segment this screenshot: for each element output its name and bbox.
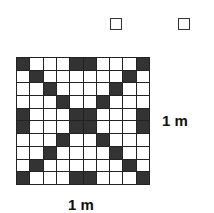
- grid-cell-light: [17, 71, 29, 83]
- grid-cell-light: [123, 109, 135, 121]
- grid-cell-light: [123, 96, 135, 108]
- grid-cell-dark: [30, 160, 42, 172]
- grid-cell-dark: [17, 109, 29, 121]
- grid-cell-light: [30, 134, 42, 146]
- grid-cell-dark: [70, 109, 82, 121]
- grid-cell-light: [97, 58, 109, 70]
- grid-cell-light: [84, 96, 96, 108]
- grid-cell-light: [57, 172, 69, 184]
- grid-cell-light: [70, 96, 82, 108]
- grid-cell-light: [30, 109, 42, 121]
- grid-cell-dark: [17, 121, 29, 133]
- grid-cell-dark: [44, 147, 56, 159]
- grid-cell-dark: [84, 121, 96, 133]
- grid-cell-light: [84, 160, 96, 172]
- grid-cell-light: [97, 71, 109, 83]
- grid-cell-light: [30, 147, 42, 159]
- grid-cell-light: [57, 121, 69, 133]
- grid-cell-dark: [70, 58, 82, 70]
- grid-cell-light: [44, 58, 56, 70]
- grid-cell-light: [44, 172, 56, 184]
- grid-cell-light: [17, 134, 29, 146]
- checkbox-1[interactable]: [110, 18, 122, 30]
- grid-cell-light: [44, 160, 56, 172]
- grid-cell-light: [30, 121, 42, 133]
- grid-cell-dark: [44, 83, 56, 95]
- grid-cell-light: [57, 71, 69, 83]
- grid-cell-light: [110, 172, 122, 184]
- grid-cell-dark: [123, 71, 135, 83]
- grid-cell-light: [110, 121, 122, 133]
- grid-cell-light: [70, 134, 82, 146]
- grid-cell-dark: [123, 160, 135, 172]
- grid-cell-light: [137, 134, 149, 146]
- height-label: 1 m: [162, 112, 188, 129]
- grid-cell-light: [44, 71, 56, 83]
- grid-cell-light: [44, 96, 56, 108]
- grid-cell-light: [57, 58, 69, 70]
- grid-cell-dark: [110, 147, 122, 159]
- grid-cell-light: [97, 83, 109, 95]
- grid-cell-light: [57, 160, 69, 172]
- grid-cell-light: [84, 147, 96, 159]
- grid-cell-light: [70, 160, 82, 172]
- grid-cell-dark: [137, 121, 149, 133]
- grid-cell-light: [110, 134, 122, 146]
- grid-cell-dark: [110, 83, 122, 95]
- grid-cell-light: [123, 147, 135, 159]
- grid-cell-light: [123, 121, 135, 133]
- tile-pattern-grid: [16, 57, 150, 185]
- grid-cell-dark: [17, 172, 29, 184]
- grid-cell-dark: [137, 109, 149, 121]
- grid-cell-light: [44, 134, 56, 146]
- grid-cell-light: [70, 83, 82, 95]
- grid-cell-dark: [57, 96, 69, 108]
- grid-cell-light: [70, 147, 82, 159]
- grid-cell-dark: [97, 96, 109, 108]
- grid-cell-light: [137, 147, 149, 159]
- grid-cell-light: [123, 172, 135, 184]
- grid-cell-light: [44, 121, 56, 133]
- grid-cell-dark: [137, 172, 149, 184]
- grid-cell-dark: [70, 172, 82, 184]
- grid-cell-dark: [84, 58, 96, 70]
- grid-cell-dark: [70, 121, 82, 133]
- grid-cell-light: [110, 71, 122, 83]
- grid-cell-light: [17, 160, 29, 172]
- grid-cell-light: [30, 172, 42, 184]
- grid-cell-light: [123, 134, 135, 146]
- grid-cell-dark: [30, 71, 42, 83]
- grid-cell-light: [97, 109, 109, 121]
- grid-cell-dark: [84, 109, 96, 121]
- width-label: 1 m: [68, 196, 94, 213]
- grid-cell-light: [123, 83, 135, 95]
- grid-cell-light: [137, 83, 149, 95]
- grid-cell-light: [84, 134, 96, 146]
- grid-cell-light: [57, 147, 69, 159]
- grid-cell-light: [110, 160, 122, 172]
- grid-cell-light: [17, 96, 29, 108]
- checkbox-2[interactable]: [178, 18, 190, 30]
- grid-cell-light: [110, 109, 122, 121]
- grid-cell-dark: [17, 58, 29, 70]
- grid-cell-dark: [84, 172, 96, 184]
- grid-cell-light: [17, 83, 29, 95]
- grid-cell-dark: [137, 58, 149, 70]
- grid-cell-light: [84, 83, 96, 95]
- grid-cell-light: [57, 109, 69, 121]
- grid-cell-light: [97, 172, 109, 184]
- grid-cell-light: [30, 96, 42, 108]
- grid-cell-dark: [97, 134, 109, 146]
- grid-cell-light: [57, 83, 69, 95]
- grid-cell-light: [97, 160, 109, 172]
- grid-cell-light: [30, 83, 42, 95]
- grid-cell-light: [70, 71, 82, 83]
- grid-cell-light: [17, 147, 29, 159]
- grid-cell-light: [110, 58, 122, 70]
- grid-cell-light: [97, 121, 109, 133]
- grid-cell-light: [137, 96, 149, 108]
- grid-cell-light: [30, 58, 42, 70]
- grid-cell-light: [44, 109, 56, 121]
- grid-cell-light: [137, 71, 149, 83]
- grid-cell-light: [97, 147, 109, 159]
